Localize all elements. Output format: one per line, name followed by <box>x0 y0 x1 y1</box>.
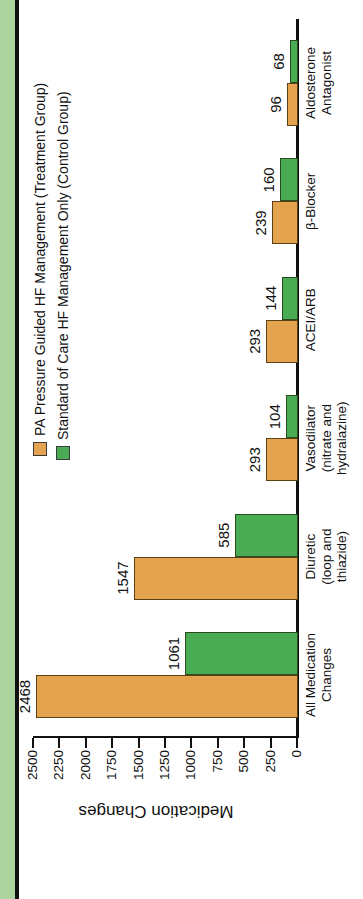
y-tick <box>270 738 272 748</box>
bar-value-label: 293 <box>246 418 264 502</box>
bar-value-label: 144 <box>262 256 280 340</box>
legend-label: PA Pressure Guided HF Management (Treatm… <box>32 83 48 436</box>
y-tick-label: 1750 <box>104 750 120 806</box>
category-label-line: Antagonist <box>319 8 335 158</box>
category-label-line: (nitrate and <box>319 363 335 513</box>
bar-value-label: 585 <box>215 493 233 577</box>
y-tick <box>243 738 245 748</box>
category-label-line: Aldosterone <box>303 8 319 158</box>
bar-value-label: 1061 <box>165 612 183 696</box>
y-tick-label: 2250 <box>51 750 67 806</box>
bar-value-label: 2468 <box>16 655 34 739</box>
bar-control <box>235 514 298 557</box>
bar-control <box>185 632 298 675</box>
bar-control <box>290 40 298 83</box>
y-tick-label: 250 <box>263 750 279 806</box>
figure-rotated-bar-chart: 0250500750100012501500175020002250250024… <box>20 0 363 899</box>
y-tick <box>85 738 87 748</box>
y-tick-label: 1250 <box>157 750 173 806</box>
bar-value-label: 104 <box>266 375 284 459</box>
y-tick-label: 2000 <box>78 750 94 806</box>
y-tick-label: 2500 <box>25 750 41 806</box>
category-label: AldosteroneAntagonist <box>303 8 334 158</box>
y-tick-label: 1500 <box>131 750 147 806</box>
category-label-line: hydralazine) <box>334 363 350 513</box>
bar-value-label: 68 <box>270 20 288 104</box>
bar-value-label: 1547 <box>114 536 132 620</box>
legend-label: Standard of Care HF Management Only (Con… <box>55 91 71 440</box>
y-tick <box>111 738 113 748</box>
y-tick-label: 0 <box>289 750 305 806</box>
bar-control <box>286 395 298 438</box>
legend-item: PA Pressure Guided HF Management (Treatm… <box>32 83 48 456</box>
legend-swatch-control <box>56 446 70 460</box>
bar-treatment <box>287 83 298 126</box>
y-axis-title: Medication Changes <box>46 801 266 821</box>
y-tick <box>164 738 166 748</box>
page-border-line <box>15 0 19 899</box>
legend-swatch-treatment <box>33 442 47 456</box>
bar-value-label: 160 <box>260 138 278 222</box>
page-margin-strip <box>0 0 15 899</box>
y-tick <box>32 738 34 748</box>
y-tick <box>296 738 298 748</box>
bar-control <box>280 158 298 201</box>
y-tick-label: 750 <box>210 750 226 806</box>
y-tick <box>217 738 219 748</box>
plot-area: 0250500750100012501500175020002250250024… <box>20 0 363 899</box>
y-tick-label: 500 <box>236 750 252 806</box>
y-tick-label: 1000 <box>183 750 199 806</box>
bar-control <box>282 277 298 320</box>
y-tick <box>190 738 192 748</box>
category-axis-line <box>296 20 299 738</box>
legend-item: Standard of Care HF Management Only (Con… <box>55 91 71 460</box>
y-tick <box>58 738 60 748</box>
y-tick <box>138 738 140 748</box>
